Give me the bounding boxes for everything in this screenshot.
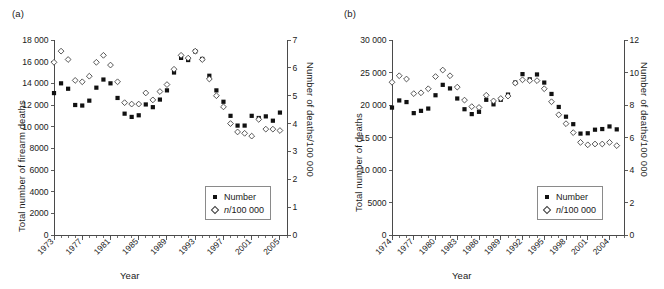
filled-square-icon (210, 195, 219, 199)
data-point-number (397, 98, 401, 102)
data-point-number (462, 107, 466, 111)
svg-text:2: 2 (630, 198, 635, 208)
data-point-number (101, 77, 105, 81)
svg-text:2001: 2001 (569, 236, 589, 256)
svg-text:4: 4 (630, 165, 635, 175)
data-point-number (455, 96, 459, 100)
data-point-rate (228, 121, 234, 127)
data-point-rate (483, 92, 489, 98)
svg-text:8: 8 (630, 100, 635, 110)
square-marker (213, 195, 217, 199)
svg-text:6000: 6000 (29, 165, 48, 175)
data-point-number (108, 81, 112, 85)
data-point-number (390, 106, 394, 110)
svg-text:2: 2 (293, 174, 298, 184)
data-point-number (600, 127, 604, 131)
data-point-rate (108, 62, 114, 68)
data-point-rate (65, 57, 71, 63)
data-point-number (115, 96, 119, 100)
svg-text:5: 5 (293, 91, 298, 101)
data-point-number (264, 114, 268, 118)
legend-item: n/100 000 (210, 203, 264, 216)
data-point-rate (556, 112, 562, 118)
data-point-rate (440, 67, 446, 73)
svg-text:1993: 1993 (176, 236, 196, 256)
data-point-number (433, 93, 437, 97)
data-point-number (271, 119, 275, 123)
svg-text:6: 6 (630, 133, 635, 143)
svg-text:4000: 4000 (29, 187, 48, 197)
data-point-number (151, 105, 155, 109)
data-point-rate (389, 79, 395, 85)
data-point-number (404, 100, 408, 104)
data-point-number (593, 128, 597, 132)
svg-text:2004: 2004 (591, 236, 611, 256)
svg-text:25 000: 25 000 (360, 68, 387, 78)
data-point-number (165, 88, 169, 92)
data-point-number (221, 100, 225, 104)
data-point-rate (614, 143, 620, 149)
svg-text:2005: 2005 (261, 236, 281, 256)
data-point-number (243, 123, 247, 127)
data-point-rate (101, 52, 107, 58)
data-point-rate (136, 101, 142, 107)
data-point-rate (122, 100, 128, 106)
svg-text:1985: 1985 (120, 236, 140, 256)
data-point-number (130, 115, 134, 119)
data-point-rate (58, 48, 64, 54)
data-point-rate (592, 141, 598, 147)
open-diamond-icon (210, 207, 219, 213)
data-point-number (137, 113, 141, 117)
panel-b-plot-svg: 0500010 00015 00020 00025 00030 00002468… (332, 0, 664, 289)
svg-text:1980: 1980 (417, 236, 437, 256)
svg-text:7: 7 (293, 35, 298, 45)
svg-text:1981: 1981 (92, 236, 112, 256)
svg-text:1974: 1974 (373, 236, 393, 256)
open-diamond-icon (542, 207, 551, 213)
data-point-rate (585, 142, 591, 148)
data-point-number (250, 114, 254, 118)
data-point-number (52, 91, 56, 95)
data-point-number (441, 83, 445, 87)
legend-label: n/100 000 (556, 205, 596, 215)
data-point-number (73, 103, 77, 107)
diamond-marker (210, 205, 218, 213)
svg-text:1989: 1989 (148, 236, 168, 256)
data-point-rate (143, 90, 149, 96)
data-point-number (426, 106, 430, 110)
diamond-marker (542, 205, 550, 213)
data-point-rate (541, 86, 547, 92)
data-point-rate (563, 121, 569, 127)
legend-item: Number (210, 190, 264, 203)
panel-a-legend: Numbern/100 000 (205, 186, 271, 220)
svg-text:10 000: 10 000 (22, 122, 49, 132)
legend-label: n/100 000 (224, 205, 264, 215)
svg-text:3: 3 (293, 146, 298, 156)
data-point-number (419, 109, 423, 113)
data-point-number (59, 81, 63, 85)
svg-text:1977: 1977 (63, 236, 83, 256)
data-point-number (535, 72, 539, 76)
svg-text:1983: 1983 (438, 236, 458, 256)
panel-a: (a) Total number of firearm deaths Numbe… (0, 0, 332, 289)
data-point-rate (447, 73, 453, 79)
svg-text:5000: 5000 (367, 198, 386, 208)
data-point-rate (433, 74, 439, 80)
data-point-number (87, 99, 91, 103)
data-point-rate (72, 77, 78, 83)
square-marker (545, 195, 549, 199)
legend-item: Number (542, 190, 596, 203)
svg-text:0: 0 (293, 230, 298, 240)
data-point-rate (221, 104, 227, 110)
svg-text:14 000: 14 000 (22, 78, 49, 88)
data-point-number (549, 92, 553, 96)
svg-text:1992: 1992 (504, 236, 524, 256)
data-point-number (412, 111, 416, 115)
panel-b-legend: Numbern/100 000 (537, 186, 603, 220)
svg-text:4: 4 (293, 119, 298, 129)
panel-a-plot: 0200040006000800010 00012 00014 00016 00… (0, 0, 332, 289)
data-point-rate (51, 59, 57, 65)
svg-text:30 000: 30 000 (360, 35, 387, 45)
filled-square-icon (542, 195, 551, 199)
svg-text:1997: 1997 (205, 236, 225, 256)
